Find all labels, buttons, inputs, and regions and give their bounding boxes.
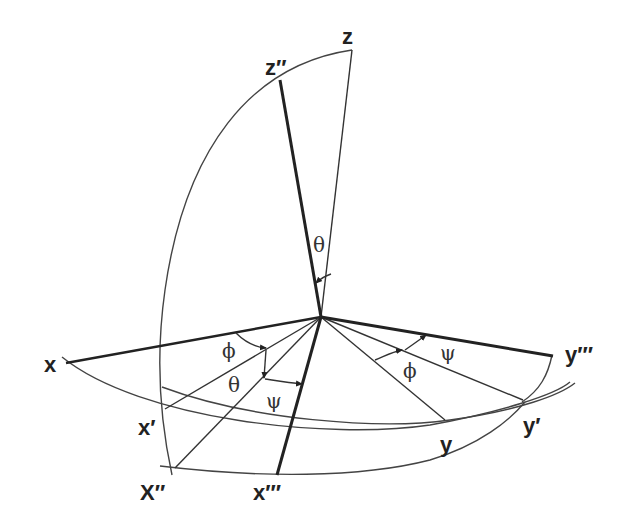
label-psi-left: ψ [266, 389, 282, 413]
psi-right-arc [405, 335, 426, 350]
y3-axis [321, 317, 553, 356]
label-y1: y′ [523, 413, 541, 438]
label-z2: z′′ [265, 55, 287, 80]
arc-y3-y1 [522, 355, 552, 402]
psi-left-arc [265, 379, 302, 384]
label-phi-right: ϕ [403, 359, 417, 383]
arc-x2-y1 [160, 402, 525, 474]
label-x: x [44, 352, 57, 377]
theta-top-arc [316, 274, 331, 283]
z2-axis [280, 80, 321, 317]
label-x3: x′′′ [253, 480, 281, 505]
label-y: y [440, 432, 453, 457]
y1-axis [321, 317, 523, 400]
label-x2: X′′ [140, 480, 165, 505]
label-y3: y′′′ [565, 342, 593, 367]
label-theta-top: θ [313, 233, 325, 257]
label-phi-left: ϕ [222, 339, 236, 363]
label-theta-left: θ [228, 373, 240, 397]
label-x1: x′ [138, 415, 156, 440]
y-axis [321, 317, 445, 420]
phi-left-arc [236, 333, 266, 348]
label-z: z [342, 24, 353, 49]
euler-angles-diagram: z z′′ x x′ X′′ x′′′ y y′ y′′′ θ ϕ θ ψ ϕ … [0, 0, 640, 529]
phi-right-arc [375, 350, 402, 360]
label-psi-right: ψ [440, 341, 456, 365]
